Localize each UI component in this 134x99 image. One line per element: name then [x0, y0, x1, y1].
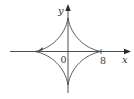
y-axis-label: y: [57, 5, 64, 16]
astroid-diagram: y x 0 8: [0, 0, 134, 99]
x-intercept-label: 8: [100, 55, 106, 66]
origin-label: 0: [61, 54, 67, 65]
y-axis-arrow-icon: [65, 4, 70, 11]
x-axis-label: x: [122, 54, 128, 65]
curve-direction-arrow-icon: [39, 47, 44, 50]
